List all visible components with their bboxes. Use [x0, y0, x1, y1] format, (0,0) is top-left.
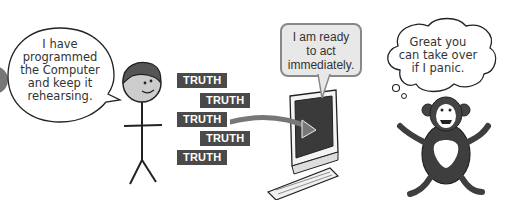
truth-label: TRUTH [177, 112, 227, 127]
computer-speech-line: immediately. [282, 58, 360, 72]
truth-label: TRUTH [177, 73, 227, 88]
person-speech-line: rehearsing. [12, 90, 108, 103]
person-speech-bubble: I have programmed the Computer and keep … [4, 28, 110, 120]
computer-speech-line: to act [282, 44, 360, 58]
illustration: I have programmed the Computer and keep … [0, 0, 505, 200]
stick-figure-person [112, 56, 172, 190]
truth-label: TRUTH [177, 150, 227, 165]
computer-speech-line: I am ready [282, 30, 360, 44]
computer-illustration [230, 86, 350, 200]
computer-bubble-tail [316, 74, 336, 100]
computer-speech-bubble: I am ready to act immediately. [280, 23, 362, 77]
chimp-thought-line: if I panic. [378, 62, 498, 75]
chimp-thought-bubble: Great you can take over if I panic. [378, 16, 498, 100]
chimp-illustration [390, 96, 500, 200]
